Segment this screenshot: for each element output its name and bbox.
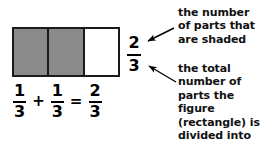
equation-term-2: 1 3 xyxy=(51,83,64,121)
plus-operator: + xyxy=(31,94,46,109)
equation-term-1: 1 3 xyxy=(13,83,26,121)
rectangle-part-2-shaded xyxy=(47,29,82,75)
fraction-equation: 1 3 + 1 3 = 2 3 xyxy=(13,83,102,121)
equation-result-denominator: 3 xyxy=(88,104,101,121)
equation-result: 2 3 xyxy=(88,83,101,121)
result-fraction-denominator: 3 xyxy=(127,58,140,75)
result-fraction-numerator: 2 xyxy=(127,35,140,52)
numerator-arrow xyxy=(148,28,174,41)
term-2-denominator: 3 xyxy=(51,104,64,121)
fraction-rectangle xyxy=(12,27,120,77)
rectangle-part-3-unshaded xyxy=(83,29,118,75)
numerator-callout-text: the number of parts that are shaded xyxy=(178,6,255,46)
fraction-diagram-canvas: 2 3 1 3 + 1 3 = 2 3 the number of parts … xyxy=(0,0,272,163)
denominator-arrow xyxy=(149,66,176,82)
term-2-numerator: 1 xyxy=(51,83,64,100)
term-1-numerator: 1 xyxy=(13,83,26,100)
equals-operator: = xyxy=(69,94,84,109)
equation-result-numerator: 2 xyxy=(88,83,101,100)
result-fraction: 2 3 xyxy=(127,35,141,75)
denominator-callout-text: the total number of parts the figure (re… xyxy=(178,62,260,142)
term-1-denominator: 3 xyxy=(13,104,26,121)
rectangle-part-1-shaded xyxy=(14,29,47,75)
